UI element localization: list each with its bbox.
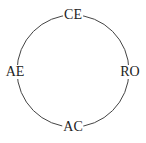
node-label-bottom: AC	[62, 120, 83, 134]
node-label-top: CE	[63, 8, 83, 22]
node-label-right: RO	[119, 65, 140, 79]
node-label-left: AE	[5, 65, 26, 79]
cycle-diagram: CE RO AC AE	[0, 0, 146, 143]
